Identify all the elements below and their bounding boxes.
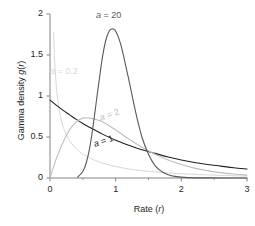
tick-marks [47, 14, 248, 182]
x-tick-label-3: 3 [227, 185, 255, 194]
x-tick-label-0: 0 [30, 185, 70, 194]
curve-label-a02: a = 0.2 [50, 67, 78, 76]
curve-group [50, 29, 247, 178]
x-tick-label-2: 2 [161, 185, 201, 194]
y-tick-label-0: 0 [0, 173, 43, 182]
y-tick-label-2: 2 [0, 9, 43, 18]
gamma-density-chart: 0 0.5 1 1.5 2 0 1 2 3 Gamma density g(r)… [0, 0, 255, 226]
y-axis-title: Gamma density g(r) [17, 36, 26, 166]
curve-label-a20: a = 20 [96, 11, 121, 20]
x-tick-label-1: 1 [96, 185, 136, 194]
x-axis-title: Rate (r) [50, 205, 248, 214]
